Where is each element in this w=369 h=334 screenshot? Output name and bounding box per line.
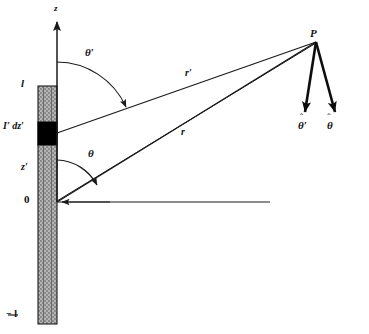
rod-top-label: l <box>21 78 24 89</box>
origin-label: 0 <box>24 194 30 205</box>
rod-bottom-label: − l <box>6 309 17 319</box>
hat-accent-icon: ˆ <box>298 113 305 123</box>
theta-prime-arc <box>57 62 126 107</box>
z-axis-label: z <box>54 4 58 13</box>
hat-accent-icon: ˆ <box>327 113 331 123</box>
diagram-canvas <box>0 0 369 334</box>
field-point-label: P <box>310 28 317 39</box>
theta-angle-label: θ <box>88 148 94 159</box>
dipole-antenna-diagram: z l I′ dz′ z′ 0 − l θ′ θ r′ r P ˆ θ′ ˆ θ <box>0 0 369 334</box>
current-element-label: I′ dz′ <box>3 121 24 131</box>
r-label: r <box>181 127 185 137</box>
theta-prime-hat-vector <box>305 42 316 112</box>
theta-hat-vector <box>316 42 335 112</box>
r-prime-line <box>57 42 316 133</box>
dipole-rod <box>38 86 57 324</box>
theta-hat-label: ˆ θ <box>327 120 333 131</box>
source-coordinate-label: z′ <box>21 162 28 172</box>
current-element-segment <box>38 122 57 145</box>
theta-prime-hat-label: ˆ θ′ <box>298 120 307 131</box>
r-prime-label: r′ <box>185 68 192 78</box>
theta-prime-angle-label: θ′ <box>85 47 94 58</box>
